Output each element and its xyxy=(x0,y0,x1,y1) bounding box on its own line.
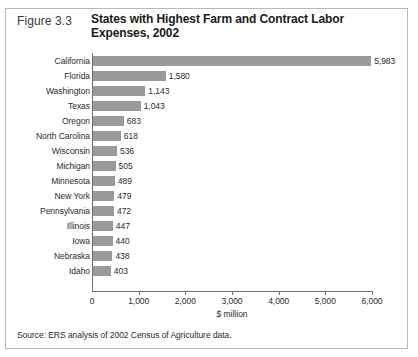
category-label: North Carolina xyxy=(36,131,90,141)
x-axis-tick xyxy=(185,291,186,295)
category-label: Minnesota xyxy=(51,176,90,186)
bar xyxy=(92,221,113,231)
category-label: Idaho xyxy=(69,266,90,276)
bar-value-label: 479 xyxy=(117,191,131,201)
category-label: California xyxy=(55,56,90,66)
bar xyxy=(92,56,371,66)
category-label: Wisconsin xyxy=(52,146,90,156)
bar xyxy=(92,101,141,111)
bar-value-label: 536 xyxy=(120,146,134,156)
x-axis-tick-label: 2,000 xyxy=(175,296,196,306)
x-axis-tick xyxy=(372,291,373,295)
x-axis-tick-label: 0 xyxy=(90,296,95,306)
bar xyxy=(92,191,114,201)
category-label: Florida xyxy=(64,71,90,81)
category-label: Iowa xyxy=(72,236,90,246)
bar-value-label: 5,983 xyxy=(374,56,395,66)
bar xyxy=(92,131,121,141)
bar-row: Oregon683 xyxy=(6,114,409,129)
bar-row: California5,983 xyxy=(6,54,409,69)
bar-row: Minnesota489 xyxy=(6,174,409,189)
bar xyxy=(92,86,145,96)
category-label: Texas xyxy=(68,101,90,111)
x-axis-title: $ million xyxy=(92,309,372,319)
category-label: Oregon xyxy=(62,116,90,126)
bar-row: Iowa440 xyxy=(6,234,409,249)
x-axis-tick xyxy=(232,291,233,295)
figure-number-label: Figure 3.3 xyxy=(17,14,72,28)
x-axis-tick-label: 4,000 xyxy=(268,296,289,306)
bar xyxy=(92,206,114,216)
bar-row: Idaho403 xyxy=(6,264,409,279)
bar-value-label: 618 xyxy=(124,131,138,141)
bar xyxy=(92,116,124,126)
source-note: Source: ERS analysis of 2002 Census of A… xyxy=(17,330,232,340)
x-axis-tick-label: 5,000 xyxy=(315,296,336,306)
bar-value-label: 472 xyxy=(117,206,131,216)
bar xyxy=(92,161,116,171)
bar-row: Texas1,043 xyxy=(6,99,409,114)
chart-plot-area: California5,983Florida1,580Washington1,1… xyxy=(6,53,409,293)
bar-row: Wisconsin536 xyxy=(6,144,409,159)
category-label: Pennsylvania xyxy=(40,206,90,216)
x-axis-tick-label: 6,000 xyxy=(361,296,382,306)
bar-row: Nebraska438 xyxy=(6,249,409,264)
bar-row: Florida1,580 xyxy=(6,69,409,84)
bar-value-label: 438 xyxy=(115,251,129,261)
bar xyxy=(92,266,111,276)
category-label: Illinois xyxy=(67,221,90,231)
figure-header: Figure 3.3 States with Highest Farm and … xyxy=(6,9,407,53)
bar-row: Michigan505 xyxy=(6,159,409,174)
x-axis-tick xyxy=(325,291,326,295)
bar-row: Pennsylvania472 xyxy=(6,204,409,219)
x-axis-tick-label: 3,000 xyxy=(221,296,242,306)
category-label: New York xyxy=(54,191,90,201)
bar-value-label: 505 xyxy=(119,161,133,171)
category-label: Nebraska xyxy=(54,251,90,261)
bar-value-label: 683 xyxy=(127,116,141,126)
bar-value-label: 447 xyxy=(116,221,130,231)
bar-value-label: 1,580 xyxy=(169,71,190,81)
figure-frame: Figure 3.3 States with Highest Farm and … xyxy=(5,8,408,349)
x-axis-tick xyxy=(139,291,140,295)
bar-value-label: 489 xyxy=(118,176,132,186)
y-axis-line xyxy=(92,53,93,291)
x-axis-tick-label: 1,000 xyxy=(128,296,149,306)
bar-value-label: 1,143 xyxy=(148,86,169,96)
bar xyxy=(92,251,112,261)
bar-row: Washington1,143 xyxy=(6,84,409,99)
category-label: Washington xyxy=(46,86,90,96)
bar-row: North Carolina618 xyxy=(6,129,409,144)
bar-value-label: 403 xyxy=(114,266,128,276)
bar xyxy=(92,236,113,246)
bar-value-label: 440 xyxy=(116,236,130,246)
bar xyxy=(92,176,115,186)
bar xyxy=(92,146,117,156)
bar-row: New York479 xyxy=(6,189,409,204)
category-label: Michigan xyxy=(56,161,90,171)
bar-row: Illinois447 xyxy=(6,219,409,234)
figure-title: States with Highest Farm and Contract La… xyxy=(91,13,391,40)
bar xyxy=(92,71,166,81)
x-axis-tick xyxy=(279,291,280,295)
bar-value-label: 1,043 xyxy=(144,101,165,111)
